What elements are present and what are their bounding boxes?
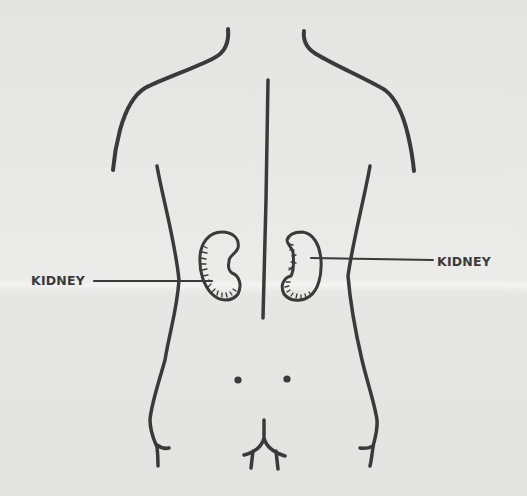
left-torso-outline [150,166,179,466]
right-kidney-shape [282,232,321,300]
body-outline-diagram [0,0,527,496]
right-back-dimple [283,375,290,382]
right-kidney-leader-line [311,258,433,260]
left-kidney-shape [200,232,240,300]
left-kidney-label: KIDNEY [31,275,85,288]
right-hip-hook [360,446,373,448]
left-hip-hook [157,445,169,448]
gluteal-cleft [244,420,285,469]
right-kidney-label: KIDNEY [437,256,491,269]
spine-line [263,80,268,318]
right-torso-outline [348,166,377,466]
right-shoulder-outline [304,31,414,171]
left-back-dimple [234,376,241,383]
left-shoulder-outline [113,29,228,170]
